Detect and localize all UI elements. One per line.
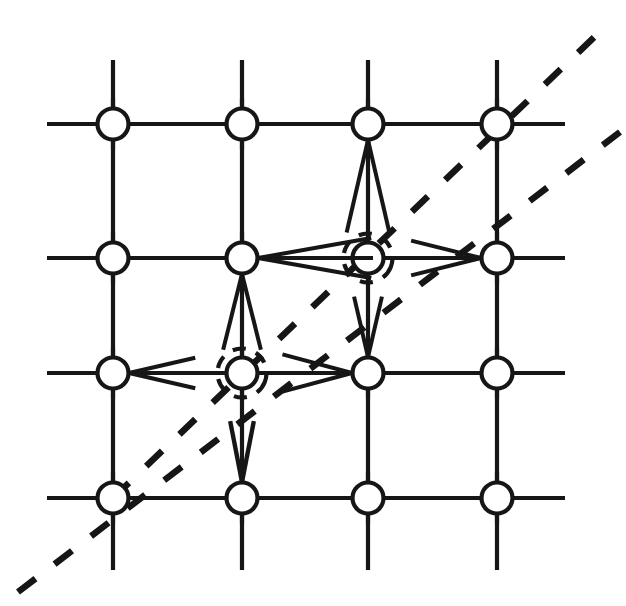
node-col2-row4-ring: [227, 483, 258, 514]
node-col4-row4-ring: [482, 483, 513, 514]
node-col1-row4-ring: [98, 483, 129, 514]
node-col2-row2-ring: [227, 243, 258, 274]
node-col1-row3-ring: [98, 358, 129, 389]
node-col4-row3-ring: [482, 358, 513, 389]
node-col1-row1-ring: [98, 109, 129, 140]
lattice-figure: [0, 0, 626, 606]
node-col3-row4-ring: [353, 483, 384, 514]
lattice-canvas: [0, 0, 626, 606]
node-col3-row1-ring: [353, 109, 384, 140]
node-col4-row1-ring: [482, 109, 513, 140]
node-col3-row3-ring: [353, 358, 384, 389]
node-col4-row2-ring: [482, 243, 513, 274]
node-col1-row2-ring: [98, 243, 129, 274]
node-col2-row1-ring: [227, 109, 258, 140]
node-col2-row3-ring: [227, 358, 258, 389]
